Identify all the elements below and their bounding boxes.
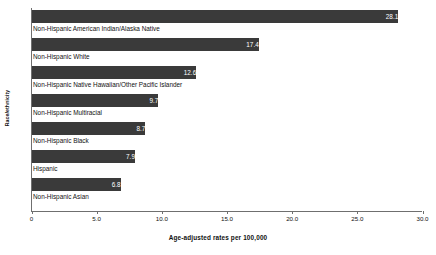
category-label: Non-Hispanic Native Hawaiian/Other Pacif…	[33, 80, 182, 89]
x-tick-label: 30.0	[416, 215, 428, 222]
x-tick-mark	[292, 211, 293, 214]
category-label: Non-Hispanic Multiracial	[33, 108, 102, 117]
bar-chart: Race/ethnicity 28.1 Non-Hispanic America…	[0, 0, 436, 255]
plot-area: 28.1 Non-Hispanic American Indian/Alaska…	[31, 8, 422, 211]
x-tick-mark	[162, 211, 163, 214]
y-axis-title-text: Race/ethnicity	[4, 89, 10, 126]
x-tick-label: 20.0	[286, 215, 298, 222]
category-label: Non-Hispanic American Indian/Alaska Nati…	[33, 24, 160, 33]
x-tick-mark	[357, 211, 358, 214]
bar-value-label: 8.7	[32, 122, 148, 135]
category-label: Hispanic	[33, 164, 58, 173]
bar-value-label: 28.1	[32, 10, 401, 23]
bar-value-label: 7.9	[32, 150, 138, 163]
category-label: Non-Hispanic Black	[33, 136, 89, 145]
bar-value-label: 17.4	[32, 38, 262, 51]
bar-value-label: 9.7	[32, 94, 161, 107]
x-tick-mark	[227, 211, 228, 214]
bar-value-label: 6.8	[32, 178, 124, 191]
x-tick-label: 5.0	[92, 215, 101, 222]
x-tick-label: 10.0	[156, 215, 168, 222]
category-label: Non-Hispanic White	[33, 52, 89, 61]
x-tick-mark	[32, 211, 33, 214]
x-tick-label: 0	[30, 215, 33, 222]
x-tick-mark	[423, 211, 424, 214]
x-axis-title: Age-adjusted rates per 100,000	[0, 234, 436, 241]
x-tick-label: 15.0	[221, 215, 233, 222]
y-axis-title: Race/ethnicity	[0, 0, 14, 215]
x-tick-label: 25.0	[351, 215, 363, 222]
bar-value-label: 12.6	[32, 66, 199, 79]
x-tick-mark	[97, 211, 98, 214]
category-label: Non-Hispanic Asian	[33, 192, 89, 201]
